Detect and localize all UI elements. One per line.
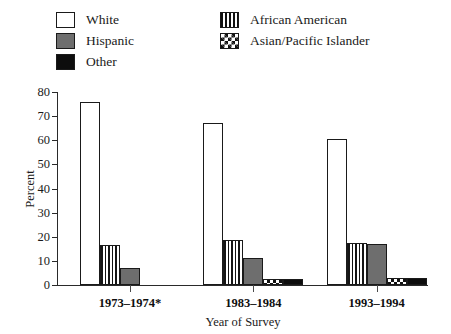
- legend-item-african-american: African American: [220, 10, 370, 30]
- y-tick-label-10: 10: [24, 253, 50, 268]
- plot-area: Percent 01020304050607080 1973–1974*1983…: [57, 92, 428, 286]
- legend-item-hispanic: Hispanic: [56, 31, 134, 51]
- bar-1973-1974-white: [80, 102, 100, 285]
- y-tick-label-0: 0: [24, 278, 50, 293]
- y-tick-label-40: 40: [24, 181, 50, 196]
- x-tick-1993-1994: [377, 285, 378, 292]
- y-tick-0: [52, 285, 58, 286]
- bar-group-1973-1974: [58, 92, 181, 285]
- asian-pacific-islander-swatch-icon: [220, 33, 239, 49]
- legend-label-asian-pacific-islander: Asian/Pacific Islander: [250, 33, 370, 49]
- legend-column-right: African American Asian/Pacific Islander: [220, 10, 370, 52]
- bar-1983-1984-white: [203, 123, 223, 285]
- legend-label-hispanic: Hispanic: [86, 33, 134, 49]
- x-tick-1983-1984: [253, 285, 254, 292]
- x-tick-1973-1974: [130, 285, 131, 292]
- legend-column-left: White Hispanic Other: [56, 10, 134, 73]
- legend-label-other: Other: [86, 54, 117, 70]
- bar-1973-1974-hispanic: [120, 268, 140, 285]
- legend-label-african-american: African American: [250, 12, 347, 28]
- y-tick-label-70: 70: [24, 109, 50, 124]
- bar-1983-1984-other: [283, 279, 303, 285]
- x-tick-label-1973-1974: 1973–1974*: [99, 296, 162, 311]
- bar-group-1993-1994: [305, 92, 428, 285]
- bar-1993-1994-white: [327, 139, 347, 285]
- bar-1983-1984-asian-pacific-islander: [263, 279, 283, 285]
- x-tick-label-1983-1984: 1983–1984: [225, 296, 281, 311]
- chart-legend: White Hispanic Other African American As…: [56, 10, 436, 72]
- bar-1993-1994-african-american: [347, 243, 367, 285]
- bar-chart-figure: White Hispanic Other African American As…: [0, 0, 451, 334]
- y-tick-label-80: 80: [24, 85, 50, 100]
- bar-1993-1994-asian-pacific-islander: [387, 278, 407, 285]
- hispanic-swatch-icon: [56, 33, 75, 49]
- bar-1983-1984-african-american: [223, 240, 243, 285]
- x-axis-title: Year of Survey: [205, 315, 280, 330]
- legend-item-white: White: [56, 10, 134, 30]
- x-tick-label-1993-1994: 1993–1994: [349, 296, 405, 311]
- y-tick-label-30: 30: [24, 205, 50, 220]
- bar-1983-1984-hispanic: [243, 258, 263, 285]
- legend-label-white: White: [86, 12, 119, 28]
- y-tick-label-50: 50: [24, 157, 50, 172]
- african-american-swatch-icon: [220, 12, 239, 28]
- other-swatch-icon: [56, 54, 75, 70]
- y-tick-label-60: 60: [24, 133, 50, 148]
- bar-group-1983-1984: [181, 92, 304, 285]
- legend-item-other: Other: [56, 52, 134, 72]
- bar-1993-1994-other: [407, 278, 427, 285]
- bar-1993-1994-hispanic: [367, 244, 387, 285]
- legend-item-asian-pacific-islander: Asian/Pacific Islander: [220, 31, 370, 51]
- y-tick-label-20: 20: [24, 229, 50, 244]
- bar-1973-1974-african-american: [100, 245, 120, 285]
- white-swatch-icon: [56, 12, 75, 28]
